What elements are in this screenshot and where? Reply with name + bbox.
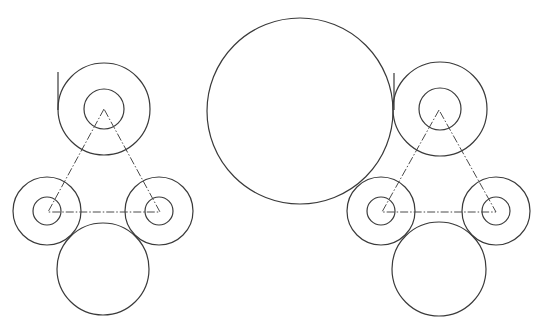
lower-circle [392,222,486,316]
bottom-left-outer-circle [13,177,81,245]
large-circle [207,18,393,204]
center-triangle [382,110,496,212]
bottom-left-inner-circle [33,197,61,225]
bottom-left-inner-circle [367,197,395,225]
top-inner-circle [419,88,461,130]
left-assembly [13,63,193,315]
bottom-left-outer-circle [347,177,415,245]
lower-circle [57,223,149,315]
drawing-canvas [0,0,540,327]
center-triangle [48,109,160,212]
right-assembly [347,62,530,316]
top-outer-circle [393,62,487,156]
